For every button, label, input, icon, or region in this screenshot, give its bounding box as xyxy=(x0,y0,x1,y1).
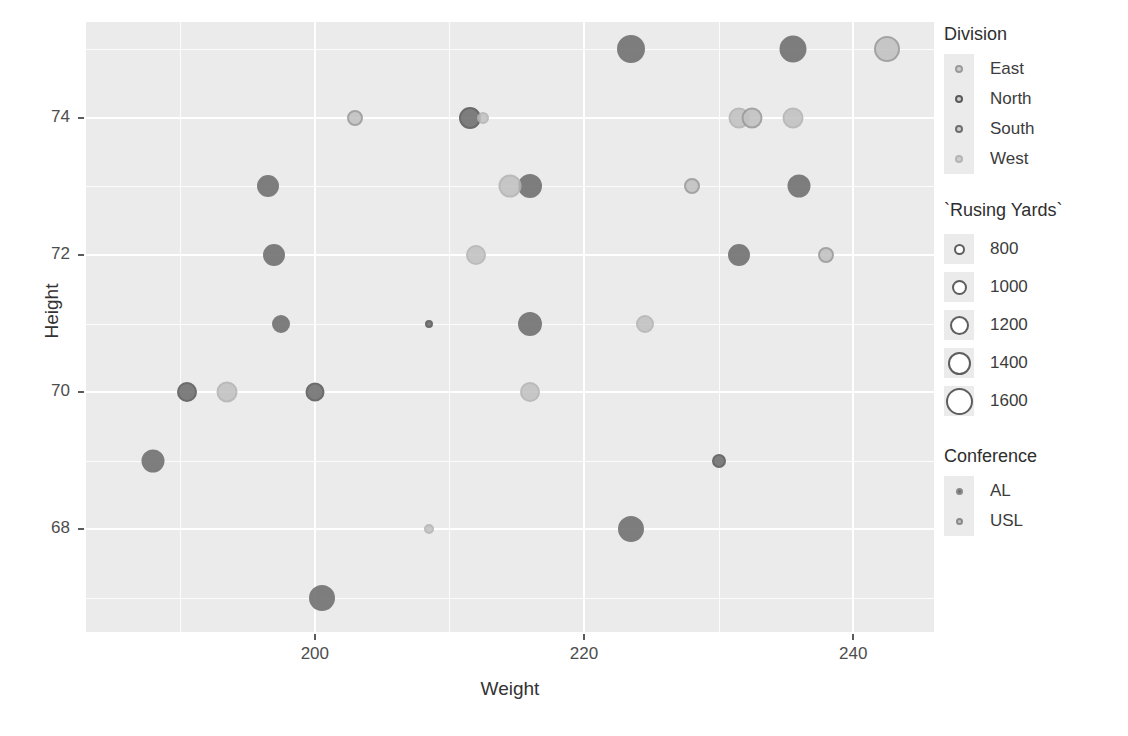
size-swatch-icon xyxy=(948,352,971,375)
gridline-x-minor xyxy=(180,22,181,632)
y-tick-mark xyxy=(78,528,84,530)
data-point xyxy=(309,585,335,611)
legend-size-item-key xyxy=(944,234,974,264)
legend-size-item-key xyxy=(944,272,974,302)
legend-size: `Rusing Yards` 8001000120014001600 xyxy=(944,200,1128,420)
conference-swatch-icon xyxy=(956,488,963,495)
y-axis-label: Height xyxy=(41,251,63,371)
legend-size-item-row[interactable]: 1600 xyxy=(944,382,1128,420)
data-point xyxy=(788,175,811,198)
legend-size-item-key xyxy=(944,386,974,416)
legend-division-item-label: East xyxy=(990,59,1024,79)
data-point xyxy=(272,315,290,333)
gridline-x-minor xyxy=(719,22,720,632)
data-point xyxy=(425,320,433,328)
legend-conference-item-key xyxy=(944,506,974,536)
data-point xyxy=(466,245,486,265)
size-swatch-icon xyxy=(950,316,969,335)
legend-division-item-label: West xyxy=(990,149,1028,169)
legend-size-items: 8001000120014001600 xyxy=(944,230,1128,420)
size-swatch-icon xyxy=(946,388,973,415)
legend-division-item-key xyxy=(944,144,974,174)
gridline-y-minor xyxy=(86,49,934,50)
legend-division-item-key xyxy=(944,114,974,144)
gridline-y-major xyxy=(86,391,934,393)
data-point xyxy=(499,175,522,198)
y-tick-mark xyxy=(78,391,84,393)
plot-panel xyxy=(86,22,934,632)
data-point xyxy=(520,382,540,402)
legend-conference-item-label: AL xyxy=(990,481,1011,501)
data-point xyxy=(518,174,542,198)
legend-size-item-row[interactable]: 1000 xyxy=(944,268,1128,306)
gridline-x-minor xyxy=(449,22,450,632)
data-point xyxy=(305,383,324,402)
legend-conference-title: Conference xyxy=(944,446,1128,467)
data-point xyxy=(712,454,726,468)
data-point xyxy=(728,244,750,266)
legend-size-item-label: 1600 xyxy=(990,391,1028,411)
data-point xyxy=(618,516,644,542)
x-tick-mark xyxy=(583,634,585,640)
x-tick-mark xyxy=(852,634,854,640)
division-swatch-icon xyxy=(955,95,963,103)
y-tick-mark xyxy=(78,117,84,119)
x-tick-label: 240 xyxy=(823,644,883,664)
legend-size-item-key xyxy=(944,348,974,378)
x-axis-label: Weight xyxy=(86,678,934,700)
data-point xyxy=(742,107,763,128)
y-tick-label: 70 xyxy=(26,381,70,401)
gridline-x-major xyxy=(852,22,854,632)
data-point xyxy=(518,312,542,336)
legend-size-item-label: 1200 xyxy=(990,315,1028,335)
data-point xyxy=(684,178,700,194)
legend-division-item-row[interactable]: East xyxy=(944,54,1128,84)
legend-size-item-label: 1000 xyxy=(990,277,1028,297)
gridline-y-major xyxy=(86,254,934,256)
data-point xyxy=(263,244,285,266)
gridline-y-minor xyxy=(86,324,934,325)
legend-division: Division EastNorthSouthWest xyxy=(944,24,1128,174)
legend-division-item-row[interactable]: West xyxy=(944,144,1128,174)
legend-size-item-label: 1400 xyxy=(990,353,1028,373)
gridline-y-major xyxy=(86,528,934,530)
legend-size-item-key xyxy=(944,310,974,340)
plot-panel-wrapper xyxy=(86,22,934,632)
legend-size-item-row[interactable]: 800 xyxy=(944,230,1128,268)
data-point xyxy=(347,110,363,126)
legend-division-items: EastNorthSouthWest xyxy=(944,54,1128,174)
gridline-x-major xyxy=(583,22,585,632)
legend-division-item-row[interactable]: South xyxy=(944,114,1128,144)
gridline-y-minor xyxy=(86,461,934,462)
gridline-y-major xyxy=(86,117,934,119)
data-point xyxy=(217,382,238,403)
legend-size-item-row[interactable]: 1400 xyxy=(944,344,1128,382)
legend-conference-item-label: USL xyxy=(990,511,1023,531)
x-tick-label: 200 xyxy=(285,644,345,664)
legend-size-item-label: 800 xyxy=(990,239,1018,259)
legend-conference-items: ALUSL xyxy=(944,476,1128,536)
gridline-x-major xyxy=(314,22,316,632)
data-point xyxy=(177,382,197,402)
legend-division-item-row[interactable]: North xyxy=(944,84,1128,114)
legend-conference-item-key xyxy=(944,476,974,506)
division-swatch-icon xyxy=(955,125,963,133)
legend-division-item-label: North xyxy=(990,89,1032,109)
data-point xyxy=(477,112,489,124)
legend-conference-item-row[interactable]: USL xyxy=(944,506,1128,536)
legend-column: Division EastNorthSouthWest `Rusing Yard… xyxy=(944,24,1128,562)
y-tick-label: 74 xyxy=(26,107,70,127)
data-point xyxy=(782,107,803,128)
conference-swatch-icon xyxy=(956,518,963,525)
data-point xyxy=(636,315,654,333)
legend-division-item-key xyxy=(944,84,974,114)
y-tick-mark xyxy=(78,254,84,256)
legend-division-item-key xyxy=(944,54,974,84)
division-swatch-icon xyxy=(955,155,963,163)
division-swatch-icon xyxy=(955,65,963,73)
legend-size-item-row[interactable]: 1200 xyxy=(944,306,1128,344)
data-point xyxy=(617,35,645,63)
data-point xyxy=(874,36,900,62)
data-point xyxy=(424,524,434,534)
legend-conference-item-row[interactable]: AL xyxy=(944,476,1128,506)
